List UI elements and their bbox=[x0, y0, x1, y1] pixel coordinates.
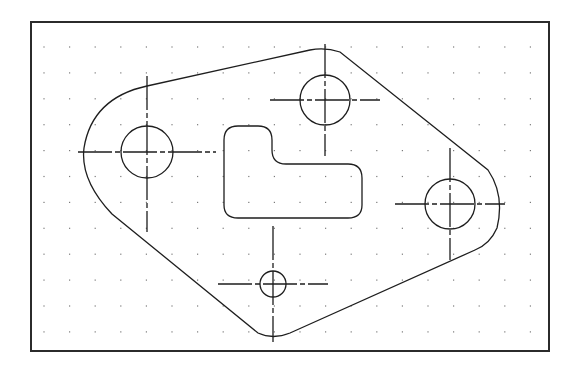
grid-dot bbox=[146, 46, 147, 47]
grid-dot bbox=[402, 150, 403, 151]
grid-dot bbox=[530, 331, 531, 332]
grid-dot bbox=[274, 124, 275, 125]
grid-dot bbox=[274, 98, 275, 99]
grid-dot bbox=[479, 305, 480, 306]
grid-dot bbox=[274, 280, 275, 281]
grid-dot bbox=[376, 305, 377, 306]
grid-dot bbox=[402, 72, 403, 73]
grid-dot bbox=[402, 254, 403, 255]
grid-dot bbox=[299, 150, 300, 151]
grid-dot bbox=[325, 254, 326, 255]
grid-dot bbox=[43, 176, 44, 177]
grid-dot bbox=[402, 331, 403, 332]
grid-dot bbox=[120, 72, 121, 73]
grid-dot bbox=[504, 202, 505, 203]
grid-dot bbox=[274, 202, 275, 203]
grid-dot bbox=[223, 46, 224, 47]
grid-dot bbox=[453, 305, 454, 306]
grid-dot bbox=[530, 176, 531, 177]
grid-dot bbox=[43, 254, 44, 255]
grid-dot bbox=[69, 176, 70, 177]
grid-dot bbox=[197, 280, 198, 281]
grid-dot bbox=[69, 331, 70, 332]
grid-dot bbox=[427, 46, 428, 47]
grid-dot bbox=[351, 280, 352, 281]
grid-dot bbox=[325, 331, 326, 332]
grid-dot bbox=[171, 280, 172, 281]
grid-dot bbox=[299, 331, 300, 332]
grid-dot bbox=[43, 150, 44, 151]
grid-dot bbox=[530, 124, 531, 125]
grid-dot bbox=[325, 280, 326, 281]
grid-dot bbox=[530, 305, 531, 306]
grid-dot bbox=[69, 305, 70, 306]
grid-dot bbox=[120, 202, 121, 203]
grid-dot bbox=[197, 305, 198, 306]
grid-dot bbox=[171, 124, 172, 125]
grid-dot bbox=[69, 124, 70, 125]
grid-dot bbox=[43, 202, 44, 203]
cad-drawing-canvas[interactable]: Gasket plate with holes bbox=[0, 0, 575, 369]
grid-dot bbox=[248, 176, 249, 177]
grid-dot bbox=[95, 72, 96, 73]
grid-dot bbox=[146, 72, 147, 73]
grid-dot bbox=[43, 124, 44, 125]
grid-dot bbox=[171, 228, 172, 229]
grid-dot bbox=[197, 254, 198, 255]
grid-dot bbox=[43, 305, 44, 306]
grid-dot bbox=[530, 46, 531, 47]
grid-dot bbox=[43, 331, 44, 332]
grid-dot bbox=[504, 46, 505, 47]
grid-dot bbox=[325, 228, 326, 229]
grid-dot bbox=[351, 46, 352, 47]
grid-dot bbox=[530, 72, 531, 73]
grid-dot bbox=[453, 331, 454, 332]
grid-dot bbox=[479, 254, 480, 255]
grid-dot bbox=[530, 280, 531, 281]
grid-dot bbox=[325, 305, 326, 306]
grid-dot bbox=[299, 124, 300, 125]
grid-dot bbox=[274, 46, 275, 47]
grid-dot bbox=[146, 254, 147, 255]
grid-dot bbox=[530, 98, 531, 99]
grid-dot bbox=[402, 202, 403, 203]
grid-dot bbox=[427, 72, 428, 73]
grid-dot bbox=[376, 176, 377, 177]
grid-dot bbox=[69, 150, 70, 151]
grid-dot bbox=[197, 72, 198, 73]
grid-dot bbox=[402, 305, 403, 306]
grid-dot bbox=[351, 72, 352, 73]
grid-dot bbox=[197, 176, 198, 177]
grid-dot bbox=[453, 72, 454, 73]
drawing-frame bbox=[31, 22, 549, 351]
grid-dot bbox=[504, 228, 505, 229]
grid-dot bbox=[504, 280, 505, 281]
grid-dot bbox=[69, 98, 70, 99]
grid-dot bbox=[427, 305, 428, 306]
grid-dot bbox=[402, 228, 403, 229]
grid-dot bbox=[351, 228, 352, 229]
grid-dot bbox=[530, 254, 531, 255]
grid-dot bbox=[376, 46, 377, 47]
grid-dot bbox=[171, 202, 172, 203]
grid-dot bbox=[299, 305, 300, 306]
grid-dot bbox=[146, 280, 147, 281]
grid-dot bbox=[223, 331, 224, 332]
grid-dot bbox=[120, 331, 121, 332]
grid-dot bbox=[120, 98, 121, 99]
grid-dot bbox=[197, 46, 198, 47]
grid-dot bbox=[43, 72, 44, 73]
grid-dot bbox=[223, 254, 224, 255]
grid-dot bbox=[95, 124, 96, 125]
grid-dot bbox=[376, 98, 377, 99]
grid-dot bbox=[248, 72, 249, 73]
grid-dot bbox=[504, 72, 505, 73]
grid-dot bbox=[479, 280, 480, 281]
grid-dot bbox=[504, 150, 505, 151]
grid-dot bbox=[299, 176, 300, 177]
grid-dot bbox=[325, 176, 326, 177]
grid-dot bbox=[427, 331, 428, 332]
grid-dot bbox=[69, 228, 70, 229]
grid-dot bbox=[120, 280, 121, 281]
grid-dot bbox=[120, 228, 121, 229]
